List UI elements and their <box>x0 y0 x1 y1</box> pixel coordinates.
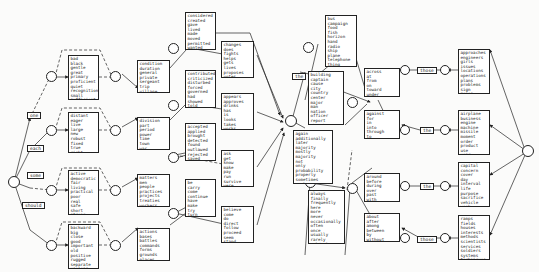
label-those-1: those <box>417 67 437 74</box>
state-node <box>110 185 121 196</box>
word-box-adv1: againadditionallylatermajoritymostlymajo… <box>293 130 333 184</box>
word-entry: turn <box>188 213 214 217</box>
word-box-noun1: conditiondurationgeneralprivatesergeantt… <box>137 60 170 93</box>
label-some: some <box>27 172 44 179</box>
state-node <box>168 43 179 54</box>
state-node <box>440 125 450 135</box>
word-box-adj2: distanteagerlivelargenewrobustfixedtruer… <box>68 112 99 153</box>
state-node <box>400 233 410 243</box>
word-entry: seldomly <box>311 243 343 244</box>
word-box-verb3: acceptedappliedbroughtdetectedfoundoutla… <box>185 123 216 161</box>
word-box-noun9: capitalconcerncoverdayintervallifepurpos… <box>458 162 490 207</box>
word-box-adv2: alwaysfinallyfrequentlyheremoreneverocca… <box>308 190 345 244</box>
word-entry: were <box>224 184 252 187</box>
state-node <box>46 185 57 196</box>
word-box-adj4: backwardbigclosegoodimportantoldpositive… <box>68 224 99 269</box>
state-node <box>400 125 410 135</box>
state-node <box>46 240 57 251</box>
word-entry: told <box>188 104 214 108</box>
word-box-verb1: consideredcreatedgavelivedmademovedpermi… <box>185 12 216 50</box>
word-entry: without <box>367 238 398 242</box>
label-should: should <box>22 202 45 209</box>
word-entry: war <box>140 147 168 150</box>
word-entry: right <box>71 151 97 153</box>
word-box-prep2: againstforinintothroughto <box>364 110 400 139</box>
state-node <box>168 100 179 111</box>
grammar-network-diagram: one each some should badblackgentlegreat… <box>0 0 539 272</box>
word-box-verb8: believecomedodirectfollowproceedseemstan… <box>221 206 254 243</box>
word-entry: saved <box>188 157 214 161</box>
word-box-adj3: activedemocraticfairlivingpracticalpoorr… <box>68 170 99 215</box>
state-node <box>400 181 410 191</box>
word-box-verb6: appearsapprovesdrinkshasislookstakeswork… <box>221 93 254 130</box>
state-node <box>46 71 57 82</box>
state-node <box>303 42 314 53</box>
word-entry: useless <box>71 267 97 269</box>
word-entry: village <box>140 90 168 93</box>
word-entry: zones <box>461 92 488 94</box>
word-box-noun10: rampsfieldshousesinterestsmethodsscienti… <box>458 215 490 260</box>
word-entry: to <box>367 135 398 139</box>
word-entry: places <box>140 258 168 261</box>
label-the-2: the <box>420 183 434 190</box>
word-box-noun2: divisionpartperiodpowertimetownwar <box>137 117 170 150</box>
state-node <box>110 71 121 82</box>
word-box-adj1: badblackgentlegreatprimaryproficientquie… <box>68 55 99 100</box>
word-box-noun8: airplanebusinessenginemachinemissilemome… <box>458 110 490 155</box>
state-node <box>110 240 121 251</box>
state-node <box>440 181 450 191</box>
word-box-prep1: acrossatfromontowardunder <box>364 68 400 97</box>
state-node <box>168 152 179 163</box>
word-box-noun4: actionsbasesbattlescommandsformsgroundsp… <box>137 228 170 261</box>
word-box-noun3: mattersmenpeoplepracticesprojectstreatie… <box>137 174 170 207</box>
word-box-verb4: becarrycomecontinuehavemaketryturn <box>185 179 216 217</box>
word-entry: works <box>224 127 252 130</box>
word-entry: techniques <box>461 258 488 260</box>
state-node <box>440 65 450 75</box>
state-node <box>347 183 358 194</box>
word-entry: thought <box>311 124 342 125</box>
state-node <box>400 65 410 75</box>
state-node <box>440 233 450 243</box>
label-the: the <box>292 73 306 80</box>
word-entry: thing <box>328 63 355 67</box>
word-box-noun6: buildingcaptaincausecitycountrycentermaj… <box>308 71 344 125</box>
word-entry: wanted <box>188 46 214 50</box>
word-entry: workers <box>140 204 168 207</box>
word-box-prep4: aboutafteramongbetweenbywithout <box>364 213 400 242</box>
word-entry: truly <box>296 183 331 184</box>
word-entry: sufficient <box>71 98 97 100</box>
state-node <box>110 125 121 136</box>
word-box-noun5: buscampaignfoodfishhorizonhandradioshipp… <box>325 15 357 67</box>
label-those-2: those <box>417 236 437 243</box>
word-box-noun7: approachesengineersgirlsissueslocationso… <box>458 49 490 94</box>
label-one: one <box>27 112 41 119</box>
state-node <box>46 125 57 136</box>
word-box-verb5: changesdoesfightshelpsgetslivesproposesv… <box>221 41 254 78</box>
word-entry: votes <box>224 75 252 78</box>
state-node <box>347 97 358 108</box>
state-node <box>168 208 179 219</box>
label-the-1: the <box>420 127 434 134</box>
word-entry: with <box>367 198 398 202</box>
start-node <box>8 176 20 188</box>
word-entry: week <box>461 205 488 207</box>
word-entry: under <box>367 93 398 97</box>
word-box-verb7: askgetknowmakepayrunsurvivewere <box>221 150 254 187</box>
word-box-prep3: aroundbeforeduringoverpastwith <box>364 173 400 202</box>
word-entry: stand <box>224 240 252 243</box>
hub-node <box>285 115 297 127</box>
end-node <box>522 145 534 157</box>
word-box-verb2: contributedcriticizeddisturbedforcedgove… <box>185 70 216 108</box>
label-each: each <box>27 145 44 152</box>
word-entry: strong <box>71 213 97 215</box>
word-entry: year <box>461 153 488 155</box>
